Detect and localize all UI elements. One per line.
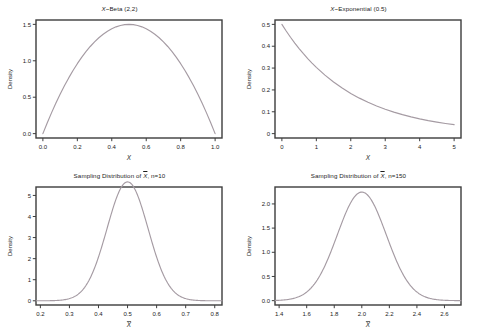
svg-text:1.6: 1.6: [303, 311, 312, 317]
svg-text:0.2: 0.2: [36, 311, 45, 317]
svg-text:0.4: 0.4: [108, 144, 117, 150]
svg-text:0.5: 0.5: [262, 274, 271, 280]
svg-text:0: 0: [280, 144, 284, 150]
panel-sampling-n10: Sampling Distribution of X, n=10 0.20.30…: [0, 167, 239, 334]
svg-text:2.0: 2.0: [262, 201, 271, 207]
svg-text:0.8: 0.8: [176, 144, 185, 150]
svg-text:0: 0: [267, 131, 271, 137]
svg-text:2: 2: [349, 144, 353, 150]
svg-text:0: 0: [28, 298, 32, 304]
panel-exponential: X~Exponential (0.5) 01234500.10.20.30.40…: [239, 0, 478, 167]
svg-text:1: 1: [28, 277, 32, 283]
svg-text:2.4: 2.4: [413, 311, 422, 317]
figure-grid: X~Beta (2,2) 0.00.20.40.60.81.00.00.51.0…: [0, 0, 478, 334]
svg-text:X: X: [126, 154, 132, 161]
svg-text:4: 4: [418, 144, 422, 150]
svg-text:0.5: 0.5: [123, 311, 132, 317]
panel-sampling-n150-plot: 1.41.61.82.02.22.42.60.00.51.01.52.0XDen…: [239, 167, 478, 334]
svg-text:4: 4: [28, 214, 32, 220]
svg-text:0.3: 0.3: [65, 311, 74, 317]
svg-text:0.3: 0.3: [262, 65, 271, 71]
svg-text:0.0: 0.0: [39, 144, 48, 150]
svg-text:5: 5: [452, 144, 456, 150]
svg-text:X: X: [365, 321, 371, 328]
svg-text:0.1: 0.1: [262, 109, 271, 115]
svg-text:3: 3: [384, 144, 388, 150]
svg-text:1.5: 1.5: [23, 22, 32, 28]
svg-text:1.0: 1.0: [211, 144, 220, 150]
svg-text:1.5: 1.5: [262, 225, 271, 231]
svg-text:2.2: 2.2: [385, 311, 394, 317]
svg-text:1.0: 1.0: [23, 58, 32, 64]
svg-text:Density: Density: [246, 69, 252, 89]
svg-text:2: 2: [28, 256, 32, 262]
svg-text:5: 5: [28, 193, 32, 199]
svg-text:3: 3: [28, 235, 32, 241]
svg-text:Density: Density: [246, 236, 252, 256]
svg-text:0.4: 0.4: [94, 311, 103, 317]
svg-text:Density: Density: [7, 236, 13, 256]
svg-text:1: 1: [315, 144, 319, 150]
panel-sampling-n150: Sampling Distribution of X, n=150 1.41.6…: [239, 167, 478, 334]
panel-beta: X~Beta (2,2) 0.00.20.40.60.81.00.00.51.0…: [0, 0, 239, 167]
svg-text:0.8: 0.8: [211, 311, 220, 317]
panel-sampling-n10-plot: 0.20.30.40.50.60.70.8012345XDensity: [0, 167, 239, 334]
svg-text:X: X: [365, 154, 371, 161]
svg-text:0.5: 0.5: [23, 94, 32, 100]
svg-text:1.4: 1.4: [275, 311, 284, 317]
svg-text:0.0: 0.0: [23, 131, 32, 137]
svg-text:1.8: 1.8: [330, 311, 339, 317]
svg-text:0.6: 0.6: [152, 311, 161, 317]
svg-text:1.0: 1.0: [262, 249, 271, 255]
svg-text:0.6: 0.6: [142, 144, 151, 150]
svg-text:2.0: 2.0: [358, 311, 367, 317]
svg-text:Density: Density: [7, 69, 13, 89]
svg-text:0.5: 0.5: [262, 22, 271, 28]
svg-text:0.2: 0.2: [73, 144, 82, 150]
svg-text:0.2: 0.2: [262, 87, 271, 93]
svg-text:0.0: 0.0: [262, 298, 271, 304]
svg-text:2.6: 2.6: [440, 311, 449, 317]
svg-text:0.7: 0.7: [182, 311, 191, 317]
svg-text:X: X: [126, 321, 132, 328]
panel-exponential-plot: 01234500.10.20.30.40.5XDensity: [239, 0, 478, 167]
svg-text:0.4: 0.4: [262, 43, 271, 49]
panel-beta-plot: 0.00.20.40.60.81.00.00.51.01.5XDensity: [0, 0, 239, 167]
